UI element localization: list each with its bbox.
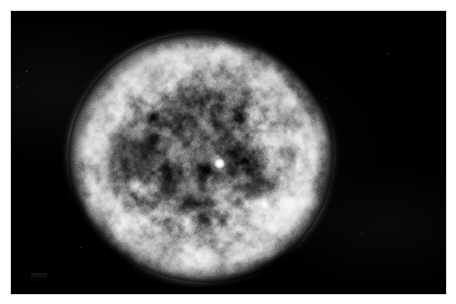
field-star [16,85,19,88]
page-root [0,0,456,304]
field-star [360,232,363,235]
central-star [214,158,225,169]
plate-corner-artifact [31,273,47,283]
field-star [387,52,390,55]
field-star [25,70,28,73]
nebula-shell [68,33,334,283]
nebula-photograph [11,11,446,294]
nebula-outer-halo [68,33,334,283]
